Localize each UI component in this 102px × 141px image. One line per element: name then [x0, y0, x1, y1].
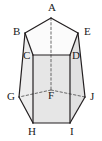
vertex-label-d: D: [72, 50, 80, 61]
vertex-label-i: I: [70, 126, 74, 137]
pentagonal-prism-drawing: [0, 0, 102, 141]
vertex-label-h: H: [28, 126, 36, 137]
vertex-label-a: A: [48, 2, 56, 13]
vertex-label-g: G: [7, 91, 15, 102]
pentagonal-prism-figure: ABECDFGJHI: [0, 0, 102, 141]
top-face: [25, 18, 78, 55]
faces-group: [19, 18, 85, 123]
vertex-label-f: F: [48, 90, 54, 101]
vertex-label-e: E: [84, 26, 91, 37]
vertex-label-j: J: [90, 91, 94, 102]
vertex-label-b: B: [13, 26, 20, 37]
vertex-label-c: C: [23, 50, 30, 61]
